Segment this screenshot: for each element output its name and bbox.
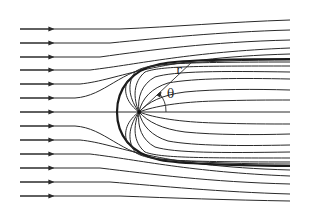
streamline-1 [20, 20, 290, 29]
streamline-diagram [0, 0, 311, 217]
flow-arrows [20, 29, 52, 196]
source-point [137, 110, 141, 114]
streamline-2 [20, 30, 290, 43]
outer-streamlines [20, 20, 290, 201]
angle-label: θ [167, 88, 174, 100]
streamline-12 [20, 182, 290, 194]
streamline-13 [20, 196, 290, 201]
radius-label: r [176, 64, 182, 76]
